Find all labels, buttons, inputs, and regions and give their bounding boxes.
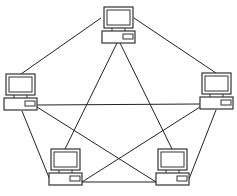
disk-drive-icon bbox=[123, 34, 133, 39]
computer-bottom-right bbox=[156, 149, 189, 185]
link-left-to-bottom-left bbox=[22, 111, 50, 180]
system-unit-icon bbox=[156, 173, 189, 185]
link-top-to-left bbox=[21, 18, 101, 74]
monitor-icon bbox=[202, 73, 231, 94]
link-top-to-bottom-left bbox=[65, 43, 117, 149]
mesh-network-diagram bbox=[0, 0, 237, 196]
link-right-to-bottom-right bbox=[189, 110, 216, 179]
system-unit-icon bbox=[200, 97, 233, 109]
monitor-icon bbox=[158, 149, 187, 170]
disk-drive-icon bbox=[177, 176, 187, 181]
computer-top bbox=[102, 7, 135, 43]
monitor-icon bbox=[51, 149, 80, 170]
monitor-icon bbox=[6, 74, 35, 95]
system-unit-icon bbox=[102, 31, 135, 43]
link-top-to-bottom-right bbox=[120, 43, 172, 149]
link-right-to-bottom-left bbox=[82, 107, 200, 182]
disk-drive-icon bbox=[25, 101, 35, 106]
link-left-to-bottom-right bbox=[37, 107, 156, 182]
disk-drive-icon bbox=[221, 100, 231, 105]
system-unit-icon bbox=[4, 98, 37, 110]
link-top-to-right bbox=[134, 18, 216, 73]
computer-right bbox=[200, 73, 233, 109]
disk-drive-icon bbox=[70, 176, 80, 181]
link-left-to-right bbox=[37, 104, 200, 105]
system-unit-icon bbox=[49, 173, 82, 185]
monitor-icon bbox=[104, 7, 133, 28]
computer-bottom-left bbox=[49, 149, 82, 185]
computer-left bbox=[4, 74, 37, 110]
